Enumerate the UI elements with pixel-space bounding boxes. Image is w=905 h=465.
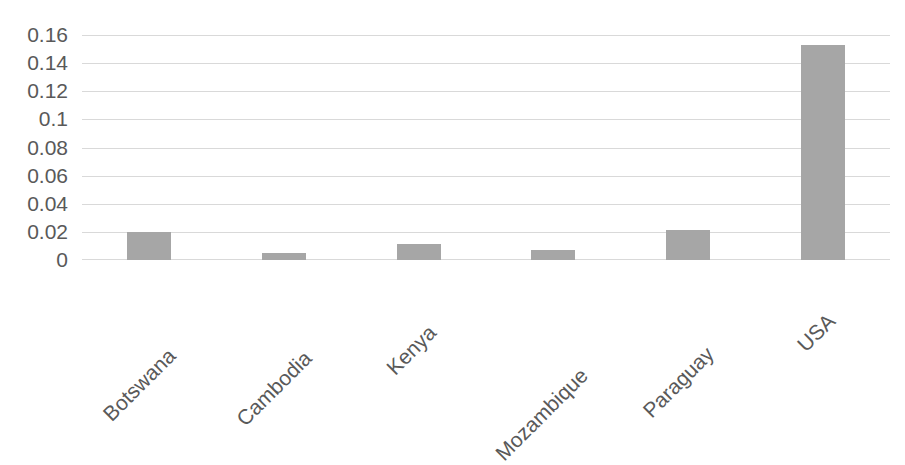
- bar[interactable]: [666, 230, 710, 260]
- x-axis-tick-label-text: Kenya: [382, 321, 440, 379]
- x-axis: BotswanaCambodiaKenyaMozambiqueParaguayU…: [82, 262, 890, 408]
- y-axis-tick-label: 0.12: [27, 80, 68, 101]
- y-axis-tick-label: 0.08: [27, 137, 68, 158]
- x-axis-tick-label: Kenya: [424, 279, 482, 337]
- bar-slot: [486, 35, 621, 260]
- y-axis-tick-label: 0.1: [39, 108, 68, 129]
- y-axis-tick-label: 0: [56, 249, 68, 270]
- y-axis-tick-label: 0.06: [27, 165, 68, 186]
- x-axis-label-slot: Cambodia: [217, 262, 352, 408]
- x-axis-tick-label-text: Mozambique: [492, 364, 593, 465]
- bar-slot: [82, 35, 217, 260]
- y-axis-tick-label: 0.16: [27, 24, 68, 45]
- bar[interactable]: [397, 244, 441, 260]
- x-axis-tick-label: USA: [824, 279, 870, 325]
- x-axis-label-slot: Mozambique: [486, 262, 621, 408]
- x-axis-tick-label-text: USA: [793, 310, 839, 356]
- y-axis: 0.160.140.120.10.080.060.040.020: [0, 0, 76, 408]
- bar-slot: [755, 35, 890, 260]
- plot-area: [82, 35, 890, 260]
- bar[interactable]: [531, 250, 575, 260]
- x-axis-label-slot: Paraguay: [621, 262, 756, 408]
- x-axis-tick-label-text: Cambodia: [233, 347, 316, 430]
- y-axis-tick-label: 0.02: [27, 221, 68, 242]
- y-axis-tick-label: 0.14: [27, 52, 68, 73]
- bar-slot: [217, 35, 352, 260]
- bar-slot: [351, 35, 486, 260]
- x-axis-tick-label-text: Botswana: [99, 344, 180, 425]
- y-axis-tick-label: 0.04: [27, 193, 68, 214]
- bar[interactable]: [801, 45, 845, 260]
- x-axis-label-slot: Kenya: [351, 262, 486, 408]
- bar[interactable]: [262, 253, 306, 260]
- bar-slot: [621, 35, 756, 260]
- x-axis-label-slot: Botswana: [82, 262, 217, 408]
- x-axis-label-slot: USA: [755, 262, 890, 408]
- bar[interactable]: [127, 232, 171, 260]
- x-axis-tick-label-text: Paraguay: [639, 343, 718, 422]
